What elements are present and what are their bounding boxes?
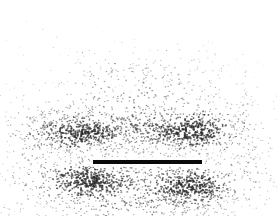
micrograph-figure: Particle distribution micrograph Graysca… — [0, 0, 277, 216]
scale-bar — [93, 160, 202, 164]
particle-field-canvas — [0, 0, 277, 216]
